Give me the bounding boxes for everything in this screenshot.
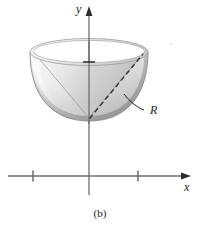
figure-panel-b: R y x (b) <box>0 0 201 226</box>
radius-label: R <box>149 103 158 117</box>
figure-caption: (b) <box>94 207 107 220</box>
paraboloid-figure: R y x (b) <box>0 0 201 226</box>
y-axis-arrowhead <box>86 6 93 16</box>
y-axis-label: y <box>75 2 82 16</box>
x-axis-arrowhead <box>181 172 191 179</box>
scan-speck <box>170 43 171 44</box>
x-axis-label: x <box>183 180 190 194</box>
